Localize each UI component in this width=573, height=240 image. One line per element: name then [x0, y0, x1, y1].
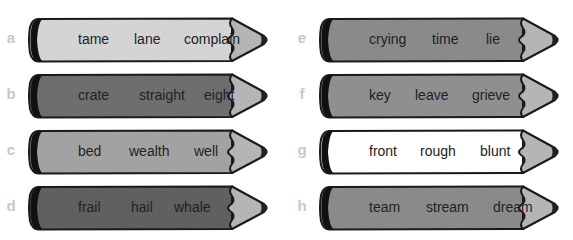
pencil: cratestraighteight: [24, 73, 274, 119]
pencil-row-h: hteamstreamdream: [295, 185, 573, 231]
word-list: cryingtimelie: [360, 17, 540, 63]
pencil: bedwealthwell: [24, 129, 274, 175]
word-list: cratestraighteight: [69, 73, 249, 119]
pencil-row-c: cbedwealthwell: [4, 129, 284, 175]
pencil-row-a: atamelanecomplain: [4, 17, 284, 63]
pencil-row-g: gfrontroughblunt: [295, 129, 573, 175]
word: bed: [78, 143, 101, 159]
word: eight: [204, 87, 234, 103]
word: front: [369, 143, 397, 159]
word: complain: [184, 31, 240, 47]
pencil-row-f: fkeyleavegrieve: [295, 73, 573, 119]
row-label: b: [4, 85, 18, 102]
word: lane: [134, 31, 160, 47]
pencil: teamstreamdream: [315, 185, 565, 231]
word: rough: [420, 143, 456, 159]
word-list: tamelanecomplain: [69, 17, 249, 63]
word-list: frontroughblunt: [360, 129, 540, 175]
word: leave: [415, 87, 448, 103]
word: lie: [486, 31, 500, 47]
word: straight: [139, 87, 185, 103]
word-list: bedwealthwell: [69, 129, 249, 175]
word: frail: [78, 199, 101, 215]
word: crate: [78, 87, 109, 103]
word: wealth: [129, 143, 169, 159]
pencil: keyleavegrieve: [315, 73, 565, 119]
pencil: cryingtimelie: [315, 17, 565, 63]
pencil: tamelanecomplain: [24, 17, 274, 63]
row-label: g: [295, 141, 309, 158]
word: key: [369, 87, 391, 103]
word-list: frailhailwhale: [69, 185, 249, 231]
pencil-row-d: dfrailhailwhale: [4, 185, 284, 231]
word-list: keyleavegrieve: [360, 73, 540, 119]
pencil: frailhailwhale: [24, 185, 274, 231]
row-label: f: [295, 85, 309, 102]
pencil-row-b: bcratestraighteight: [4, 73, 284, 119]
word: crying: [369, 31, 406, 47]
word: stream: [426, 199, 469, 215]
word: dream: [493, 199, 533, 215]
word: team: [369, 199, 400, 215]
row-label: a: [4, 29, 18, 46]
row-label: d: [4, 197, 18, 214]
word: tame: [78, 31, 109, 47]
word-list: teamstreamdream: [360, 185, 540, 231]
pencil-row-e: ecryingtimelie: [295, 17, 573, 63]
word: well: [194, 143, 218, 159]
word: time: [432, 31, 458, 47]
row-label: c: [4, 141, 18, 158]
pencil: frontroughblunt: [315, 129, 565, 175]
word: blunt: [480, 143, 510, 159]
row-label: e: [295, 29, 309, 46]
word: grieve: [472, 87, 510, 103]
word: hail: [131, 199, 153, 215]
row-label: h: [295, 197, 309, 214]
word: whale: [174, 199, 211, 215]
